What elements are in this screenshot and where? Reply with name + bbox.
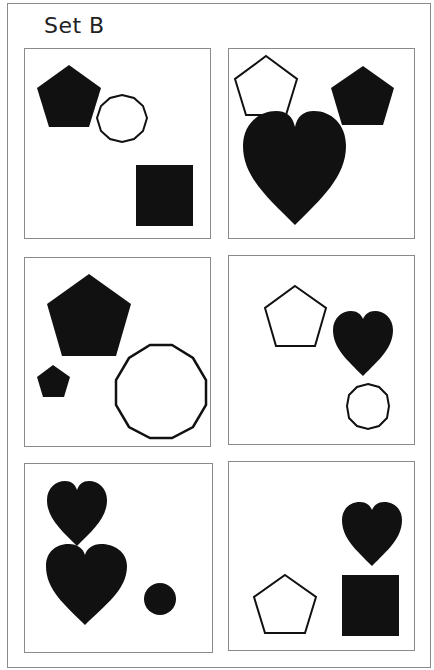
filled-pentagon-shape: [331, 66, 394, 125]
outline-pentagon-shape: [235, 56, 297, 115]
filled-square-shape: [342, 575, 399, 636]
large-filled-heart-shape: [46, 544, 127, 625]
set-title: Set B: [44, 13, 105, 38]
panel-4: [228, 255, 415, 445]
filled-heart-shape: [243, 111, 346, 225]
filled-heart-shape: [342, 502, 402, 566]
panel-3: [24, 257, 211, 447]
outline-pentagon-shape: [265, 286, 326, 346]
outline-circle-shape: [116, 345, 206, 438]
filled-pentagon-shape: [47, 274, 131, 356]
outline-pentagon-shape: [254, 575, 316, 633]
panel-2: [228, 48, 415, 239]
filled-square-shape: [136, 165, 193, 226]
small-filled-pentagon-shape: [37, 365, 70, 397]
filled-circle-shape: [144, 583, 176, 615]
outline-circle-shape: [347, 384, 389, 429]
panel-6: [228, 461, 415, 651]
panel-5: [24, 463, 213, 653]
panel-1: [24, 48, 211, 239]
filled-heart-shape: [47, 481, 107, 546]
filled-pentagon-shape: [37, 65, 101, 127]
filled-heart-shape: [333, 311, 393, 376]
outline-circle-shape: [97, 95, 147, 142]
